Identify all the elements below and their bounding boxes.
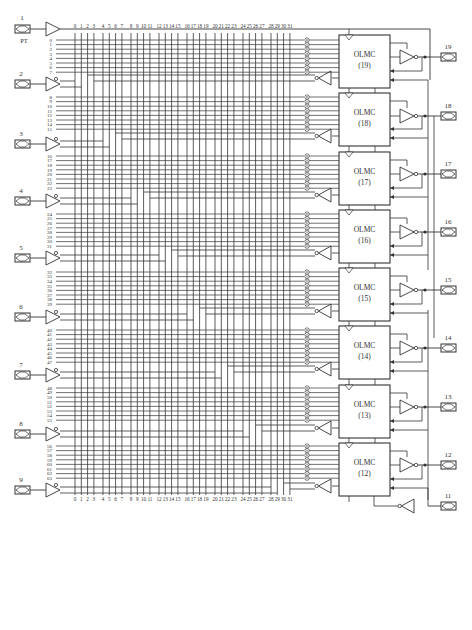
column-label-bottom: 17	[191, 496, 197, 502]
column-label-top: 22	[225, 23, 231, 29]
pin-14[interactable]	[441, 344, 456, 352]
column-label-bottom: 1	[80, 496, 83, 502]
column-label-bottom: 4	[102, 496, 105, 502]
pin-15[interactable]	[441, 286, 456, 294]
pin-17[interactable]	[441, 170, 456, 178]
olmc-label: OLMC	[354, 167, 376, 176]
column-label-top: 16	[184, 23, 190, 29]
input-buffer	[46, 194, 60, 208]
input-buffer	[46, 368, 60, 382]
pin-number: 5	[19, 244, 23, 252]
input-buffer	[46, 427, 60, 441]
column-label-bottom: 3	[93, 496, 96, 502]
feedback-buffer	[315, 479, 331, 493]
input-buffer	[46, 483, 60, 497]
output-inverter	[400, 400, 418, 414]
pin-label-pt: PT	[20, 37, 28, 44]
pin-12[interactable]	[441, 461, 456, 469]
column-label-bottom: 16	[184, 496, 190, 502]
column-label-top: 20	[212, 23, 218, 29]
row-label: 47	[47, 360, 53, 365]
pin-5[interactable]	[15, 254, 30, 262]
column-label-top: 15	[175, 23, 181, 29]
pin-number: 8	[19, 420, 23, 428]
pin-1-clock[interactable]	[15, 25, 30, 33]
and-gate-array	[305, 154, 309, 191]
column-label-top: 29	[275, 23, 281, 29]
and-gate-array	[305, 386, 309, 423]
pin-11-oe[interactable]	[441, 502, 456, 510]
column-label-bottom: 9	[136, 496, 139, 502]
row-label: 39	[47, 302, 53, 307]
olmc-label: OLMC	[354, 458, 376, 467]
row-label: 15	[47, 127, 53, 132]
pin-16[interactable]	[441, 228, 456, 236]
column-label-bottom: 30	[281, 496, 287, 502]
pin-4[interactable]	[15, 197, 30, 205]
column-label-top: 27	[259, 23, 265, 29]
column-label-bottom: 25	[247, 496, 253, 502]
input-buffer	[46, 137, 60, 151]
olmc-label: OLMC	[354, 225, 376, 234]
column-label-bottom: 19	[203, 496, 209, 502]
pin-7[interactable]	[15, 371, 30, 379]
column-label-top: 13	[163, 23, 169, 29]
junction-dot	[423, 288, 426, 291]
row-label: 23	[47, 186, 53, 191]
column-label-bottom: 14	[169, 496, 175, 502]
pin-19[interactable]	[441, 53, 456, 61]
pin-13[interactable]	[441, 403, 456, 411]
column-label-top: 14	[169, 23, 175, 29]
pin-number: 17	[445, 160, 453, 168]
pin-8[interactable]	[15, 430, 30, 438]
output-inverter	[400, 167, 418, 181]
column-label-bottom: 5	[108, 496, 111, 502]
and-gate-array	[305, 95, 309, 132]
pin-number: 2	[19, 70, 23, 78]
junction-dot	[423, 114, 426, 117]
input-buffer	[46, 310, 60, 324]
output-inverter	[400, 283, 418, 297]
column-label-bottom: 7	[121, 496, 124, 502]
column-label-bottom: 21	[219, 496, 225, 502]
pin-number: 13	[445, 393, 453, 401]
pin-2[interactable]	[15, 80, 30, 88]
and-gate-array	[305, 212, 309, 249]
column-label-top: 11	[147, 23, 152, 29]
column-label-bottom: 29	[275, 496, 281, 502]
pin-number: 1	[20, 14, 24, 22]
olmc-number: (14)	[358, 352, 371, 361]
pin-number: 16	[445, 218, 453, 226]
column-label-top: 18	[197, 23, 203, 29]
row-label: 63	[47, 476, 53, 481]
column-label-bottom: 18	[197, 496, 203, 502]
junction-dot	[423, 172, 426, 175]
olmc-number: (16)	[358, 236, 371, 245]
pin-number: 7	[19, 361, 23, 369]
olmc-number: (12)	[358, 469, 371, 478]
feedback-buffer	[315, 129, 331, 143]
pin-18[interactable]	[441, 112, 456, 120]
column-label-bottom: 2	[86, 496, 89, 502]
junction-dot	[423, 55, 426, 58]
pin-6[interactable]	[15, 313, 30, 321]
feedback-buffer	[315, 421, 331, 435]
olmc-label: OLMC	[354, 50, 376, 59]
pin-3[interactable]	[15, 140, 30, 148]
output-inverter	[400, 458, 418, 472]
column-label-bottom: 23	[231, 496, 237, 502]
input-buffer	[46, 251, 60, 265]
pin-9[interactable]	[15, 486, 30, 494]
pin-number: 4	[19, 187, 23, 195]
column-label-top: 23	[231, 23, 237, 29]
column-label-top: 21	[219, 23, 225, 29]
feedback-buffer	[315, 246, 331, 260]
and-gate-array	[305, 444, 309, 481]
column-label-top: 2	[86, 23, 89, 29]
gal-logic-diagram: 0011223344556677889910101111121213131414…	[0, 0, 472, 630]
column-label-bottom: 10	[141, 496, 147, 502]
feedback-buffer	[315, 304, 331, 318]
row-label: 31	[47, 244, 53, 249]
column-label-top: 7	[121, 23, 124, 29]
column-label-bottom: 12	[156, 496, 162, 502]
